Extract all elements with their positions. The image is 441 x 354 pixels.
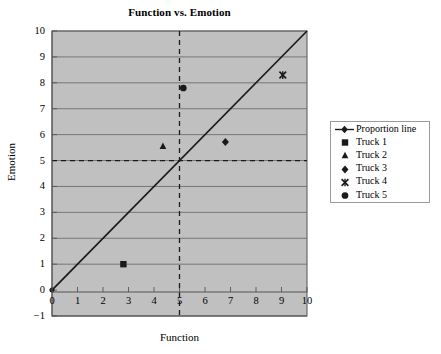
legend-item-label: Proportion line [356,124,416,134]
x-tick-label: 3 [119,295,139,306]
x-tick-label: 9 [272,295,292,306]
legend-marker-line-icon [334,122,356,135]
x-axis-title: Function [52,331,307,343]
legend-item-label: Truck 5 [356,190,387,200]
y-tick-label: 8 [21,77,45,88]
x-tick-label: 6 [195,295,215,306]
legend-item-label: Truck 1 [356,137,387,147]
legend-item: Truck 5 [331,188,429,201]
y-tick-label: 5 [21,155,45,166]
legend-item: Truck 4 [331,175,429,188]
x-tick-label: 0 [42,295,62,306]
legend-item: Truck 2 [331,148,429,161]
y-axis-title: Emotion [5,127,17,197]
y-tick-label: 0 [21,284,45,295]
legend-item: Truck 1 [331,135,429,148]
y-tick-label: −1 [21,310,45,321]
legend-item: Proportion line [331,122,429,135]
x-tick-label: 7 [221,295,241,306]
legend-item-label: Truck 3 [356,163,387,173]
legend-marker-diamond-icon [334,162,356,175]
legend-item: Truck 3 [331,162,429,175]
chart-figure: Function vs. Emotion 012345678910 109876… [0,0,441,354]
x-tick-label: 4 [144,295,164,306]
x-tick-label: 10 [297,295,317,306]
plot-area-background [52,31,307,316]
x-tick-label: 2 [93,295,113,306]
y-tick-label: 6 [21,129,45,140]
y-tick-label: 3 [21,206,45,217]
chart-legend: Proportion lineTruck 1Truck 2Truck 3Truc… [330,121,430,203]
legend-marker-square-icon [334,135,356,148]
y-tick-label: 4 [21,180,45,191]
legend-marker-circle-icon [334,188,356,201]
x-tick-label: 1 [68,295,88,306]
x-tick-label: 5 [170,295,190,306]
legend-marker-x-icon [334,175,356,188]
y-tick-label: 10 [21,25,45,36]
legend-marker-triangle-icon [334,148,356,161]
y-tick-label: 2 [21,232,45,243]
y-tick-label: 1 [21,258,45,269]
legend-item-label: Truck 2 [356,150,387,160]
y-tick-label: 7 [21,103,45,114]
y-tick-label: 9 [21,51,45,62]
legend-item-label: Truck 4 [356,176,387,186]
x-tick-label: 8 [246,295,266,306]
